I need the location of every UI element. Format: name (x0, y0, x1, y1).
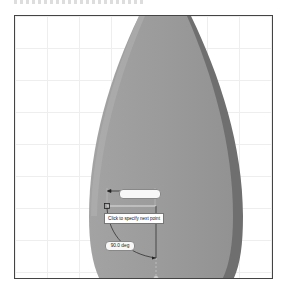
cropped-caption (14, 0, 144, 4)
angle-input[interactable]: 90.0 deg (105, 241, 135, 251)
dimension-input[interactable] (119, 189, 161, 199)
shape-face[interactable] (89, 16, 233, 279)
drawing-viewport[interactable]: Click to specify next point 90.0 deg (14, 15, 273, 279)
model-scene (15, 16, 273, 279)
command-tooltip: Click to specify next point (104, 213, 164, 224)
base-point-marker[interactable] (154, 276, 159, 280)
